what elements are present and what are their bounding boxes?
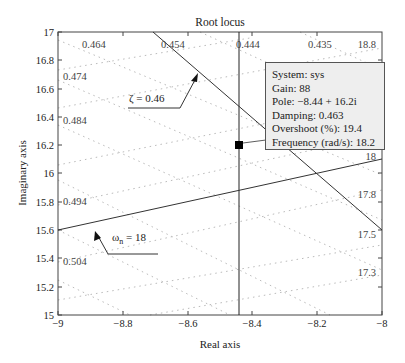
y-tick-label: 16 xyxy=(44,168,55,179)
x-tick-label: −9 xyxy=(52,318,63,329)
frequency-label: 17.5 xyxy=(358,229,376,240)
y-tick-label: 15.6 xyxy=(36,225,54,236)
y-axis-label: Imaginary axis xyxy=(16,140,28,206)
y-tick-labels: 15 15.2 15.4 15.6 15.8 16 16.2 16.4 16.6… xyxy=(36,27,55,321)
damping-label: 0.454 xyxy=(161,39,185,50)
x-tick-label: −8.6 xyxy=(178,318,197,329)
x-tick-labels: −9 −8.8 −8.6 −8.4 −8.2 −8 xyxy=(52,318,387,329)
datatip[interactable]: System: sys Gain: 88 Pole: −8.44 + 16.2i… xyxy=(265,62,385,150)
x-tick-label: −8 xyxy=(376,318,387,329)
y-tick-label: 16.6 xyxy=(36,84,54,95)
datatip-damping: Damping: 0.463 xyxy=(272,109,378,123)
datatip-gain: Gain: 88 xyxy=(272,82,378,96)
damping-label: 0.484 xyxy=(63,115,87,126)
y-tick-label: 15.4 xyxy=(36,253,55,264)
damping-label: 0.504 xyxy=(63,256,87,267)
damping-label: 0.435 xyxy=(308,39,332,50)
datatip-connector xyxy=(243,140,266,143)
omega-annotation-text: ωn = 18 xyxy=(112,231,146,246)
damping-label: 0.464 xyxy=(82,39,106,50)
zeta-annotation-text: ζ = 0.46 xyxy=(129,92,165,105)
x-tick-label: −8.2 xyxy=(307,318,326,329)
y-tick-label: 16.2 xyxy=(36,140,54,151)
y-tick-label: 15 xyxy=(44,310,55,321)
x-axis-label: Real axis xyxy=(200,338,241,350)
zeta-annotation: ζ = 0.46 xyxy=(128,73,198,108)
datatip-frequency: Frequency (rad/s): 18.2 xyxy=(272,136,378,150)
datatip-pole: Pole: −8.44 + 16.2i xyxy=(272,95,378,109)
frequency-label: 18.8 xyxy=(358,39,376,50)
chart-title: Root locus xyxy=(195,16,245,28)
omega-annotation: ωn = 18 xyxy=(94,231,158,254)
y-tick-label: 16.4 xyxy=(36,112,55,123)
y-tick-label: 16.8 xyxy=(36,55,54,66)
damping-label: 0.444 xyxy=(236,39,260,50)
datatip-overshoot: Overshoot (%): 19.4 xyxy=(272,122,378,136)
y-tick-label: 17 xyxy=(44,27,55,38)
frequency-label: 17.3 xyxy=(358,267,376,278)
damping-label: 0.494 xyxy=(63,196,87,207)
y-tick-label: 15.8 xyxy=(36,197,54,208)
x-tick-label: −8.8 xyxy=(113,318,132,329)
selected-pole-marker[interactable] xyxy=(235,141,243,149)
root-locus-chart: −9 −8.8 −8.6 −8.4 −8.2 −8 15 15.2 15.4 1… xyxy=(0,0,405,363)
y-tick-label: 15.2 xyxy=(36,282,54,293)
arrow-head-icon xyxy=(191,73,198,82)
x-tick-label: −8.4 xyxy=(242,318,262,329)
datatip-system: System: sys xyxy=(272,68,378,82)
damping-label: 0.474 xyxy=(63,71,87,82)
frequency-label: 17.8 xyxy=(358,189,376,200)
